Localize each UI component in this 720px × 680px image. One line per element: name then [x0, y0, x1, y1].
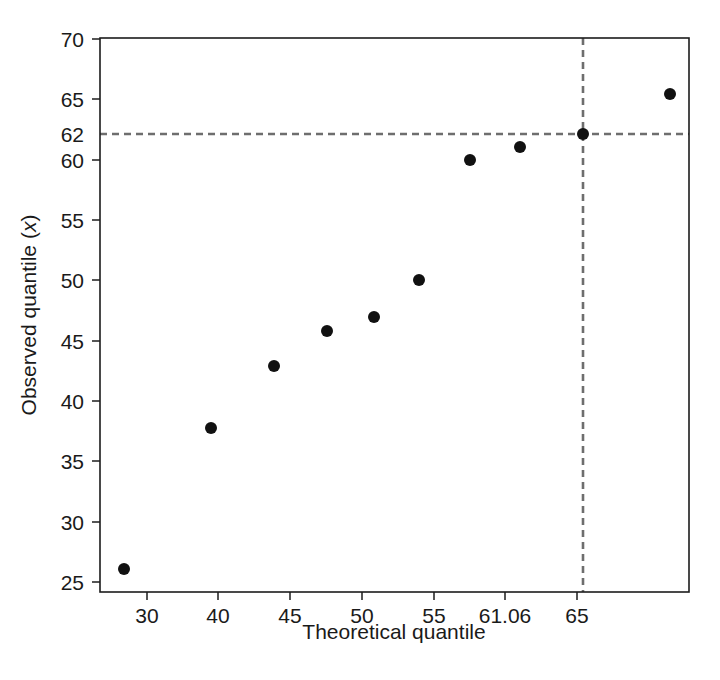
y-tick-label: 60	[61, 149, 84, 172]
y-tick-label: 50	[61, 269, 84, 292]
y-tick-label: 62	[61, 123, 84, 146]
y-tick-label: 25	[61, 571, 84, 594]
data-point	[118, 563, 130, 575]
x-tick-label: 45	[278, 604, 301, 627]
y-axis-title-close: )	[17, 215, 40, 222]
y-tick-label: 45	[61, 330, 84, 353]
y-axis-title-plain: Observed quantile (	[17, 232, 40, 415]
x-tick-label: 40	[206, 604, 229, 627]
chart-figure: 304045505561.0665 2530354045505560626570…	[0, 0, 720, 680]
x-tick-label: 61.06	[479, 604, 532, 627]
data-point	[413, 274, 425, 286]
x-tick-label: 65	[565, 604, 588, 627]
x-tick-label: 30	[135, 604, 158, 627]
data-point	[205, 422, 217, 434]
data-point	[664, 88, 676, 100]
x-axis-title: Theoretical quantile	[302, 620, 485, 643]
data-point	[514, 141, 526, 153]
y-tick-label: 30	[61, 511, 84, 534]
data-point	[464, 154, 476, 166]
y-axis-title: Observed quantile (x)	[17, 215, 40, 416]
data-point	[268, 360, 280, 372]
y-tick-label: 55	[61, 209, 84, 232]
y-tick-label: 65	[61, 88, 84, 111]
chart-background	[0, 0, 720, 680]
qq-plot-svg: 304045505561.0665 2530354045505560626570…	[0, 0, 720, 680]
data-point	[577, 128, 589, 140]
y-tick-label: 35	[61, 450, 84, 473]
data-point	[321, 325, 333, 337]
y-tick-label: 40	[61, 390, 84, 413]
y-axis-title-group: Observed quantile (x)	[17, 215, 40, 416]
y-tick-label: 70	[61, 28, 84, 51]
data-point	[368, 311, 380, 323]
